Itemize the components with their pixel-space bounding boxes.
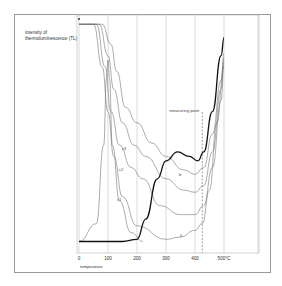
curve-label: c2 [119,167,124,172]
curve-label: b [179,172,182,177]
x-tick-label: 100 [104,256,112,261]
x-tick-label: 400 [191,256,199,261]
curve-label: c3 [122,146,127,151]
x-tick-label: 0 [78,256,81,261]
curve-label: 0 [180,233,183,238]
axis-marker [78,18,80,20]
plot-area: 0100200300400500°Cmeasuring pointc3c2c10… [0,0,282,286]
curve-label: c1 [117,197,122,202]
measuring-point-label: measuring point [169,108,200,113]
x-tick-label: 200 [133,256,141,261]
x-tick-label: 500°C [218,256,232,261]
series-peak-curve [79,60,143,241]
x-tick-label: 300 [162,256,170,261]
